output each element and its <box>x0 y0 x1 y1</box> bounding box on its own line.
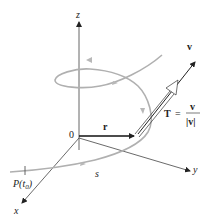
z-axis-label: z <box>75 9 80 20</box>
start-point-label: P(t0) <box>12 178 33 191</box>
origin-label: 0 <box>69 129 74 140</box>
space-curve <box>10 55 162 172</box>
curve-direction-arrow <box>140 108 145 114</box>
y-axis <box>79 138 190 171</box>
svg-text:v: v <box>190 101 195 112</box>
curve-direction-arrow <box>86 57 92 63</box>
svg-text:|v|: |v| <box>186 116 195 127</box>
svg-text:T: T <box>164 108 171 119</box>
svg-text:=: = <box>175 108 181 119</box>
svg-text:P(t0): P(t0) <box>12 178 33 191</box>
y-axis-label: y <box>192 164 198 175</box>
tangent-vector-diagram: z y x 0 r v T = v |v| P(t0) s <box>0 0 210 223</box>
r-label: r <box>103 121 108 132</box>
tangent-formula: T = v |v| <box>164 101 200 127</box>
x-axis-label: x <box>13 205 19 216</box>
v-label: v <box>187 41 192 52</box>
arc-length-label: s <box>95 168 99 179</box>
